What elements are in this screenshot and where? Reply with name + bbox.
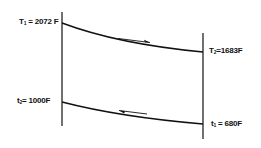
heat-exchanger-diagram: T1 = 2072 F T2=1683F t2= 1000F t1 = 680F [0,0,261,148]
value: 1000F [29,96,51,105]
hot-outlet-label: T2=1683F [209,47,242,55]
equals: = [26,17,35,26]
hot-inlet-label: T1 = 2072 F [19,18,59,26]
cold-outlet-label: t2= 1000F [17,97,50,105]
value: 2072 F [35,17,59,26]
equals: = [216,119,225,128]
cold-flow-arrow-icon [119,111,147,115]
cold-stream-curve [62,102,203,124]
value: 1683F [221,46,243,55]
cold-inlet-label: t1 = 680F [211,120,242,128]
value: 680F [225,119,242,128]
hot-stream-curve [62,23,203,52]
